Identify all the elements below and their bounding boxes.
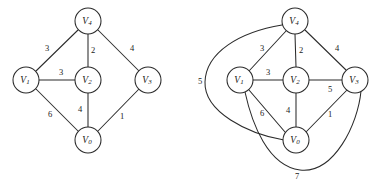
edge-weight-v1-v4: 3 [260, 43, 264, 53]
edge-weight-v1-v4: 3 [45, 43, 49, 53]
edge-weight-v2-v0: 4 [78, 104, 83, 114]
edge-weight-v1-v3-curved: 7 [295, 171, 299, 181]
edge-weight-v1-v0: 6 [48, 109, 52, 119]
edge-weight-v1-v2: 3 [266, 67, 270, 77]
edge-weight-v1-v2: 3 [59, 67, 63, 77]
edge-weight-v4-v0-curved: 5 [198, 76, 202, 86]
edge-v1-v0 [249, 90, 285, 132]
edge-weight-v1-v0: 6 [260, 108, 264, 118]
right-graph-edge-weights: 3 2 4 3 5 6 4 1 5 7 [198, 43, 340, 181]
edge-weight-v2-v0: 4 [286, 105, 291, 115]
edge-weight-v0-v3: 1 [120, 111, 124, 121]
edge-v0-v3 [306, 90, 347, 132]
edge-weight-v4-v3: 4 [335, 43, 340, 53]
edge-weight-v4-v3: 4 [130, 43, 135, 53]
edge-v0-v3 [98, 89, 139, 131]
edge-v1-v4 [249, 31, 286, 71]
edge-v4-v3 [305, 30, 346, 70]
edge-weight-v2-v3: 5 [328, 84, 332, 94]
edge-weight-v4-v2: 2 [91, 45, 95, 55]
graph-figure: V4 V1 V2 V3 V0 3 2 4 3 6 4 1 [0, 0, 382, 184]
edge-weight-v0-v3: 1 [328, 109, 332, 119]
left-graph: V4 V1 V2 V3 V0 3 2 4 3 6 4 1 [13, 8, 161, 153]
edge-weight-v4-v2: 2 [299, 45, 303, 55]
graph-svg-canvas: V4 V1 V2 V3 V0 3 2 4 3 6 4 1 [0, 0, 382, 184]
edge-v4-v2 [295, 34, 296, 67]
edge-v1-v4 [36, 30, 78, 71]
right-graph: V4 V1 V2 V3 V0 3 2 4 3 5 6 4 1 5 7 [198, 8, 368, 181]
edge-v1-v0 [36, 89, 78, 131]
